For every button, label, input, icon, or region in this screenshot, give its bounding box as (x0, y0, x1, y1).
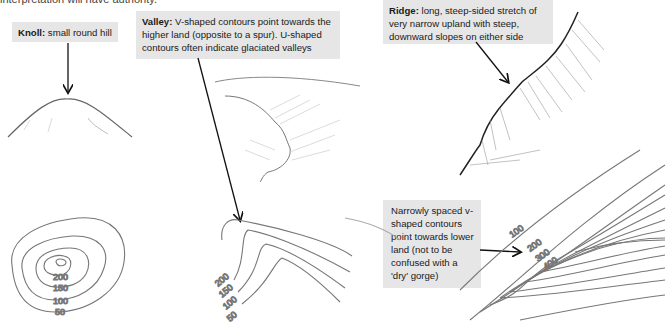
svg-text:150: 150 (53, 283, 68, 293)
ridge-arrow (476, 42, 508, 82)
knoll-sketch (8, 43, 132, 137)
svg-text:50: 50 (55, 307, 65, 317)
svg-text:100: 100 (507, 223, 525, 240)
spur-contours: 100 200 300 400 (460, 150, 665, 320)
svg-text:200: 200 (53, 272, 68, 282)
svg-text:100: 100 (53, 296, 68, 306)
knoll-contours: 200 150 100 50 (12, 218, 125, 317)
diagram-artwork: 200 150 100 50 200 150 100 50 (0, 0, 669, 325)
valley-sketch (215, 77, 360, 182)
gorge-arrow (480, 250, 520, 252)
valley-arrow (198, 58, 240, 220)
ridge-sketch (460, 12, 604, 175)
valley-contours: 200 150 100 50 (213, 218, 400, 324)
